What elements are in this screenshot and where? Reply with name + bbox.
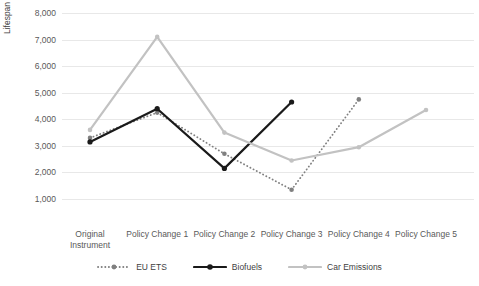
legend-label: Car Emissions bbox=[327, 262, 382, 272]
data-point bbox=[222, 130, 227, 135]
data-point bbox=[222, 152, 227, 157]
legend-item-eu-ets[interactable]: EU ETS bbox=[97, 262, 167, 272]
legend-swatch bbox=[97, 262, 131, 272]
data-point bbox=[424, 108, 429, 113]
legend-item-biofuels[interactable]: Biofuels bbox=[193, 262, 262, 272]
data-point bbox=[87, 139, 92, 144]
legend-item-car-emissions[interactable]: Car Emissions bbox=[288, 262, 382, 272]
data-point bbox=[289, 187, 294, 192]
data-point bbox=[155, 35, 160, 40]
chart-legend: EU ETSBiofuelsCar Emissions bbox=[0, 262, 479, 272]
data-point bbox=[289, 99, 294, 104]
data-point bbox=[289, 158, 294, 163]
data-point bbox=[357, 145, 362, 150]
data-point bbox=[222, 166, 227, 171]
series-line-eu-ets bbox=[90, 99, 359, 189]
data-point bbox=[155, 106, 160, 111]
series-line-car-emissions bbox=[90, 37, 426, 161]
legend-label: Biofuels bbox=[232, 262, 262, 272]
line-chart: Lifespan (days) 1,0002,0003,0004,0005,00… bbox=[0, 0, 479, 286]
data-point bbox=[88, 128, 93, 133]
legend-swatch bbox=[288, 262, 322, 272]
legend-swatch bbox=[193, 262, 227, 272]
series-line-biofuels bbox=[90, 102, 292, 168]
data-point bbox=[357, 97, 362, 102]
legend-label: EU ETS bbox=[136, 262, 167, 272]
plot-area bbox=[0, 0, 479, 286]
